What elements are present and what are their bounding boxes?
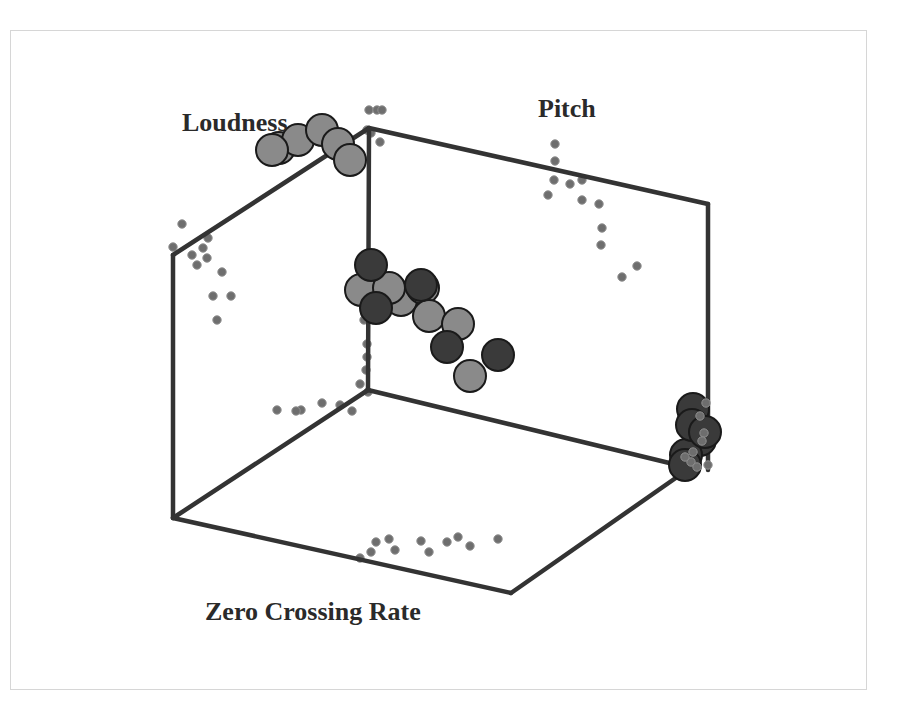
projection-dot: [633, 262, 641, 270]
projection-dot: [169, 243, 177, 251]
projection-dot: [700, 429, 708, 437]
projection-dot: [551, 140, 559, 148]
projection-dot: [551, 157, 559, 165]
projection-dot: [595, 200, 603, 208]
projection-dot: [696, 412, 704, 420]
data-clusters: [256, 114, 721, 481]
projection-dot: [544, 191, 552, 199]
projection-dot: [698, 437, 706, 445]
data-point-dark: [431, 331, 463, 363]
projection-dot: [425, 548, 433, 556]
axis-label-zero-crossing-rate: Zero Crossing Rate: [205, 597, 421, 626]
projection-dot: [598, 224, 606, 232]
projection-dot: [693, 463, 701, 471]
projection-dot: [466, 542, 474, 550]
projection-dot: [681, 453, 689, 461]
projection-dot: [318, 399, 326, 407]
data-point-light: [454, 360, 486, 392]
box-edge-line: [173, 390, 368, 518]
box-edge-line: [369, 128, 708, 204]
projection-dot: [348, 407, 356, 415]
projection-dot: [218, 268, 226, 276]
projection-dot: [689, 448, 697, 456]
data-point-dark: [482, 339, 514, 371]
projection-dot: [566, 180, 574, 188]
projection-dot: [494, 535, 502, 543]
projection-dot: [178, 220, 186, 228]
projection-dot: [213, 316, 221, 324]
projection-dot: [199, 244, 207, 252]
projection-dot: [704, 461, 712, 469]
data-point-dark: [355, 249, 387, 281]
data-point-light: [334, 144, 366, 176]
projection-dot: [376, 138, 384, 146]
projection-dot: [372, 538, 380, 546]
projection-dot: [618, 273, 626, 281]
projection-dot: [385, 535, 393, 543]
projection-dot: [597, 241, 605, 249]
box-edge-line: [368, 390, 690, 468]
projection-dot: [550, 176, 558, 184]
data-point-dark: [360, 292, 392, 324]
scatter-3d-plot: Loudness Pitch Zero Crossing Rate: [0, 0, 903, 713]
box-edge-line: [511, 468, 690, 593]
projection-dot: [365, 106, 373, 114]
projection-dot: [578, 196, 586, 204]
projection-dot: [391, 546, 399, 554]
projection-dot: [378, 106, 386, 114]
projection-dot: [273, 406, 281, 414]
axis-label-pitch: Pitch: [538, 94, 596, 123]
axis-label-loudness: Loudness: [182, 108, 288, 137]
projection-dot: [417, 537, 425, 545]
projection-dot: [702, 399, 710, 407]
projection-dot: [292, 407, 300, 415]
projection-dot: [227, 292, 235, 300]
projection-dot: [443, 538, 451, 546]
projection-dot: [356, 380, 364, 388]
projection-dot: [193, 261, 201, 269]
data-point-light: [413, 300, 445, 332]
data-point-dark: [405, 269, 437, 301]
projection-dot: [188, 251, 196, 259]
data-point-light: [256, 134, 288, 166]
projection-dot: [203, 254, 211, 262]
projection-dot: [454, 533, 462, 541]
projection-dot: [367, 548, 375, 556]
box-edge-line: [173, 518, 511, 593]
projection-dot: [209, 292, 217, 300]
